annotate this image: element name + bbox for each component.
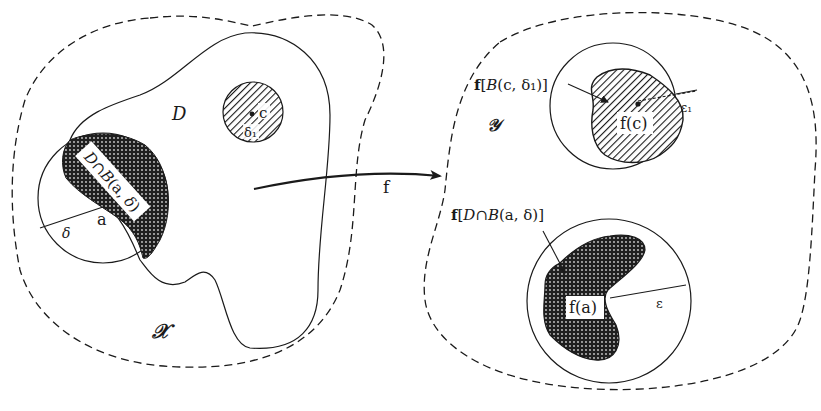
radius-epsilon-label: ε <box>656 296 663 311</box>
radius-epsilon1-label: ε₁ <box>681 101 692 115</box>
point-fc-dot <box>635 101 640 106</box>
mapping-arrow <box>254 174 440 189</box>
space-x-boundary <box>12 15 384 367</box>
point-c-label: c <box>259 104 267 122</box>
radius-delta-label: δ <box>62 225 70 241</box>
domain-space-x: D∩B(a, δ) δ a D c δ₁ 𝒳 <box>12 15 384 367</box>
image-ball-c-callout: f[B(c, δ₁)] <box>474 76 548 94</box>
set-d-label: D <box>171 103 187 124</box>
space-x-label: 𝒳 <box>151 319 175 343</box>
codomain-space-y: 𝒴 f(c) ε₁ f[B(c, δ₁)] f(a) ε f[D∩B(a, δ)… <box>424 13 816 390</box>
radius-epsilon-line <box>610 285 686 298</box>
continuity-diagram: D∩B(a, δ) δ a D c δ₁ 𝒳 f 𝒴 f( <box>0 0 821 411</box>
space-y-label: 𝒴 <box>487 115 505 135</box>
radius-delta-line <box>40 207 103 228</box>
point-fc-label: f(c) <box>620 114 647 133</box>
point-c-dot <box>250 112 255 117</box>
point-a-label: a <box>97 210 107 229</box>
point-fa-label: f(a) <box>569 298 597 317</box>
image-intersection-callout: f[D∩B(a, δ)] <box>451 206 544 224</box>
mapping-f-label: f <box>383 177 391 197</box>
mapping-f: f <box>254 174 440 197</box>
radius-delta1-label: δ₁ <box>244 125 257 140</box>
